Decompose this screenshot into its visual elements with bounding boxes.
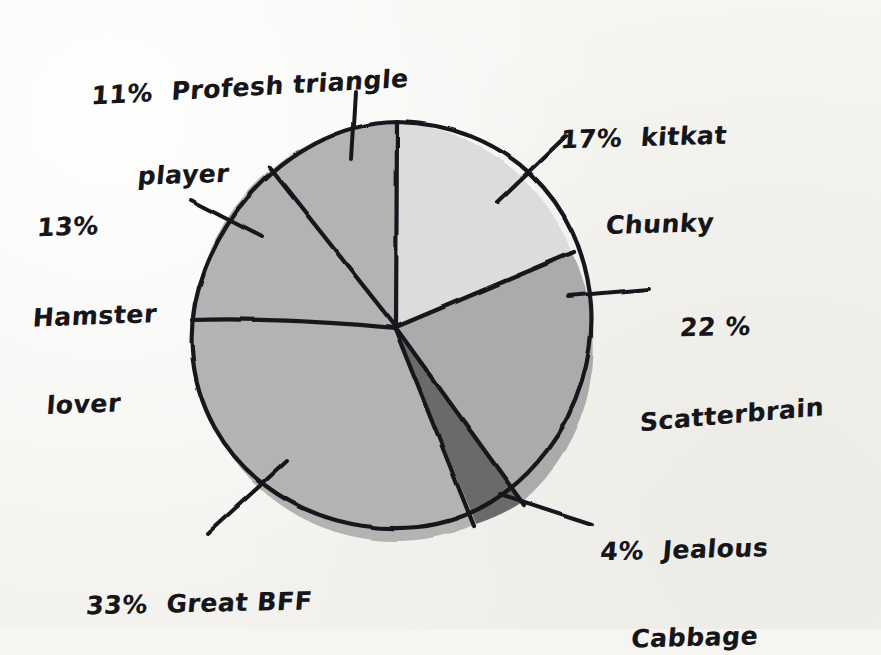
slice-label-kitkat-line2: Chunky	[605, 209, 722, 240]
slice-label-hamster-line3: lover	[46, 388, 152, 420]
slice-label-hamster-line2: Hamster	[32, 300, 158, 332]
slice-label-scatterbrain: 22 % Scatterbrain	[666, 255, 838, 486]
slice-label-jealous-line2: Cabbage	[630, 622, 762, 653]
slice-label-great-bff-line1: 33% Great BFF	[85, 587, 313, 620]
slice-label-hamster-line1: 13%	[36, 210, 164, 242]
slice-label-jealous-cabbage: 4% Jealous Cabbage	[588, 478, 774, 655]
slice-label-jealous-line1: 4% Jealous	[599, 534, 769, 566]
slice-label-scatterbrain-line1: 22 %	[679, 311, 833, 342]
slice-label-kitkat-line1: 17% kitkat	[560, 121, 729, 154]
slice-label-hamster-lover: 13% Hamster lover	[20, 154, 168, 477]
slice-label-great-bff: 33% Great BFF	[80, 531, 318, 655]
leader-jealous	[500, 494, 592, 524]
slice-label-profesh-line2: player	[136, 154, 403, 190]
slice-label-profesh-line1: 11% Profesh triangle	[90, 65, 409, 111]
